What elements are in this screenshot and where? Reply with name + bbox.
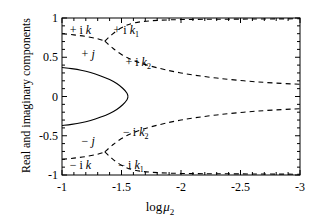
axes-frame: [62, 18, 300, 175]
plot-canvas: [0, 0, 320, 223]
curve-annotation-j: + j: [82, 47, 95, 62]
x-tick-label: -1: [57, 180, 67, 195]
curve-annotation-ik: + i k: [70, 23, 91, 38]
y-tick-label: -0.5: [20, 128, 58, 143]
curve-annotation-ik2: + i k2: [125, 54, 150, 69]
curve-annotation--ik2: − i k2: [123, 125, 148, 140]
x-tick-label: -1.5: [112, 180, 131, 195]
curve-annotation--ik1: − i k1: [118, 157, 143, 172]
curve-annotation-ik1: + i k1: [114, 22, 139, 37]
x-tick-label: -2: [176, 180, 186, 195]
figure-container: Real and imaginary components log μ2 10.…: [0, 0, 320, 223]
y-tick-label: -1: [20, 168, 58, 183]
y-tick-label: 1: [20, 11, 58, 26]
plot-frame: [62, 18, 300, 175]
x-tick-label: -2.5: [231, 180, 250, 195]
curve-annotation--j: − j: [82, 134, 95, 149]
curve-annotation--ik: − i k: [70, 157, 91, 172]
x-tick-label: -3: [295, 180, 305, 195]
x-axis-label: log μ2: [0, 199, 320, 217]
y-tick-label: 0: [20, 89, 58, 104]
y-tick-label: 0.5: [20, 50, 58, 65]
x-axis-label-text: log μ2: [146, 199, 175, 214]
